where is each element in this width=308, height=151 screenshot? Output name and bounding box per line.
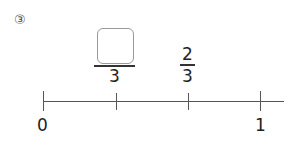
problem-number: ③ xyxy=(14,12,26,27)
denominator: 3 xyxy=(182,68,193,85)
label-one: 1 xyxy=(255,117,266,134)
axis-line xyxy=(43,101,284,102)
denominator: 3 xyxy=(109,68,120,85)
label-zero: 0 xyxy=(37,117,48,134)
numerator: 2 xyxy=(182,46,193,63)
tick-1 xyxy=(116,93,117,110)
tick-2 xyxy=(188,93,189,110)
tick-0 xyxy=(43,91,44,111)
tick-3 xyxy=(260,91,261,111)
answer-input-box[interactable] xyxy=(97,28,134,64)
